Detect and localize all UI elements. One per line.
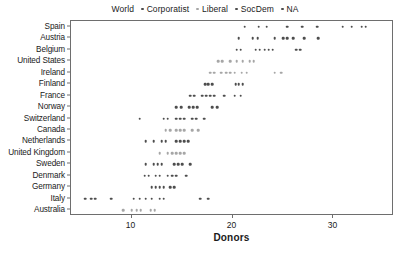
y-axis-tick-row: Germany xyxy=(32,181,70,192)
data-point xyxy=(179,140,182,143)
data-point xyxy=(195,117,198,120)
legend-marker-icon xyxy=(141,8,144,11)
legend-marker-icon xyxy=(235,8,238,11)
data-point xyxy=(229,60,232,63)
data-point xyxy=(201,94,204,97)
data-point xyxy=(196,106,199,109)
data-point xyxy=(237,37,240,40)
legend-marker-icon xyxy=(196,8,199,11)
data-point xyxy=(264,48,267,51)
data-point xyxy=(295,48,298,51)
x-axis-tick-label: 20 xyxy=(227,220,236,230)
data-point xyxy=(165,129,168,132)
data-point xyxy=(169,186,172,189)
data-point xyxy=(132,197,135,200)
data-point xyxy=(144,197,147,200)
data-point xyxy=(258,48,261,51)
legend-entry-na: NA xyxy=(281,4,299,14)
data-point xyxy=(161,140,164,143)
data-point xyxy=(207,197,210,200)
legend-entry-socdem: SocDem xyxy=(235,4,274,14)
data-point xyxy=(167,152,170,155)
data-point xyxy=(171,152,174,155)
data-point xyxy=(272,48,275,51)
data-point xyxy=(239,48,242,51)
legend-marker-icon xyxy=(281,8,284,11)
x-axis-tickmark xyxy=(131,215,132,218)
data-point xyxy=(274,37,277,40)
data-point xyxy=(299,48,302,51)
data-point xyxy=(163,186,166,189)
y-axis-label: Austria xyxy=(40,33,67,42)
data-point xyxy=(173,186,176,189)
data-point xyxy=(183,140,186,143)
data-point xyxy=(241,83,244,86)
y-axis-tick-row: United States xyxy=(17,55,70,66)
data-point xyxy=(350,25,353,28)
y-axis-tick-row: Belgium xyxy=(36,43,70,54)
data-point xyxy=(185,175,188,178)
data-point xyxy=(235,48,238,51)
data-point xyxy=(153,209,156,212)
data-point xyxy=(175,175,178,178)
data-point xyxy=(274,71,277,74)
y-axis-tick-row: Netherlands xyxy=(22,135,70,146)
x-axis-tick-label: 30 xyxy=(328,220,337,230)
data-point xyxy=(286,37,289,40)
data-point xyxy=(360,25,363,28)
data-point xyxy=(139,209,142,212)
y-axis-tick-row: Ireland xyxy=(41,66,70,77)
y-axis-label: United States xyxy=(17,56,67,65)
y-axis: SpainAustriaBelgiumUnited StatesIrelandF… xyxy=(0,20,70,215)
data-point xyxy=(216,106,219,109)
data-point xyxy=(154,175,157,178)
data-point xyxy=(257,25,260,28)
y-axis-label: Canada xyxy=(37,124,67,133)
data-point xyxy=(179,117,182,120)
data-point xyxy=(110,197,113,200)
data-point xyxy=(203,117,206,120)
data-point xyxy=(209,94,212,97)
data-point xyxy=(175,140,178,143)
x-axis-tickmark xyxy=(332,215,333,218)
data-point xyxy=(280,71,283,74)
data-point xyxy=(268,48,271,51)
data-point xyxy=(180,106,183,109)
data-point xyxy=(286,25,289,28)
data-point xyxy=(205,94,208,97)
data-point xyxy=(167,117,170,120)
data-point xyxy=(165,140,168,143)
data-point xyxy=(159,152,162,155)
data-point xyxy=(175,129,178,132)
y-axis-tick-row: Denmark xyxy=(32,169,70,180)
data-point xyxy=(254,48,257,51)
data-point xyxy=(183,152,186,155)
y-axis-tick-row: Switzerland xyxy=(24,112,70,123)
y-axis-label: Ireland xyxy=(41,67,67,76)
y-axis-tick-row: Spain xyxy=(45,20,70,31)
data-point xyxy=(179,152,182,155)
data-point xyxy=(159,175,162,178)
data-point xyxy=(144,140,147,143)
data-point xyxy=(173,163,176,166)
x-axis-tickmark xyxy=(232,215,233,218)
y-axis-tick-row: Austria xyxy=(40,32,70,43)
data-point xyxy=(303,37,306,40)
legend-entry-liberal: Liberal xyxy=(196,4,228,14)
data-point xyxy=(163,117,166,120)
legend-label: Liberal xyxy=(202,4,228,14)
data-point xyxy=(317,37,320,40)
y-axis-label: Denmark xyxy=(32,170,67,179)
y-axis-label: Belgium xyxy=(36,44,67,53)
legend-label: World xyxy=(111,4,134,14)
data-point xyxy=(341,25,344,28)
data-point xyxy=(225,71,228,74)
data-point xyxy=(147,175,150,178)
y-axis-label: Norway xyxy=(38,102,67,111)
y-axis-label: Netherlands xyxy=(22,136,67,145)
data-point xyxy=(233,71,236,74)
data-point xyxy=(183,117,186,120)
y-axis-label: France xyxy=(40,90,67,99)
data-point xyxy=(175,106,178,109)
data-point xyxy=(189,163,192,166)
